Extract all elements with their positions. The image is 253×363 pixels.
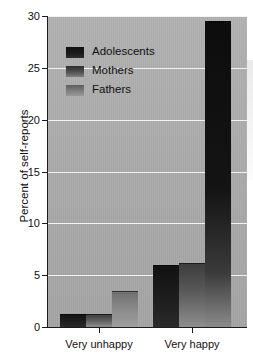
x-tick-label-very-unhappy: Very unhappy: [65, 338, 132, 350]
y-tick-mark-10: [42, 223, 47, 224]
y-tick-mark-15: [42, 172, 47, 173]
y-tick-mark-5: [42, 275, 47, 276]
y-tick-mark-0: [42, 327, 47, 328]
legend-label-adolescents: Adolescents: [92, 46, 155, 58]
legend: Adolescents Mothers Fathers: [66, 44, 155, 101]
bar-cap: [205, 21, 231, 22]
legend-label-mothers: Mothers: [92, 65, 134, 77]
bar-cap: [60, 314, 86, 315]
legend-swatch-mothers-icon: [66, 66, 84, 77]
bar-cap: [112, 291, 138, 292]
bar-cap: [86, 314, 112, 315]
bar-very-happy-mothers: [179, 263, 205, 327]
y-tick-label-25: 25: [28, 63, 40, 74]
y-tick-mark-20: [42, 120, 47, 121]
legend-item-mothers: Mothers: [66, 63, 155, 79]
bar-chart: Adolescents Mothers Fathers 30 25 20 15 …: [0, 0, 253, 363]
bar-very-unhappy-mothers: [86, 314, 112, 328]
bar-very-happy-fathers: [205, 21, 231, 327]
x-axis-line: [47, 327, 247, 328]
legend-swatch-adolescents-icon: [66, 47, 84, 58]
y-axis-line: [47, 16, 48, 328]
gridline-30: [48, 16, 247, 17]
bar-very-happy-adolescents: [153, 265, 179, 327]
bar-cap: [153, 265, 179, 266]
bar-very-unhappy-adolescents: [60, 314, 86, 328]
y-tick-label-30: 30: [28, 11, 40, 22]
y-tick-label-5: 5: [34, 270, 40, 281]
legend-item-adolescents: Adolescents: [66, 44, 155, 60]
legend-item-fathers: Fathers: [66, 82, 155, 98]
legend-label-fathers: Fathers: [92, 84, 131, 96]
x-tick-mark-very-happy: [192, 328, 193, 333]
x-tick-label-very-happy: Very happy: [164, 338, 219, 350]
y-tick-mark-25: [42, 68, 47, 69]
y-tick-mark-30: [42, 16, 47, 17]
x-tick-mark-very-unhappy: [99, 328, 100, 333]
bar-cap: [179, 263, 205, 264]
legend-swatch-fathers-icon: [66, 85, 84, 96]
y-tick-label-0: 0: [34, 322, 40, 333]
scan-edge-artifact: [247, 60, 253, 180]
y-axis-title: Percent of self-reports: [18, 86, 30, 246]
bar-very-unhappy-fathers: [112, 291, 138, 327]
plot-area: Adolescents Mothers Fathers: [48, 16, 247, 327]
